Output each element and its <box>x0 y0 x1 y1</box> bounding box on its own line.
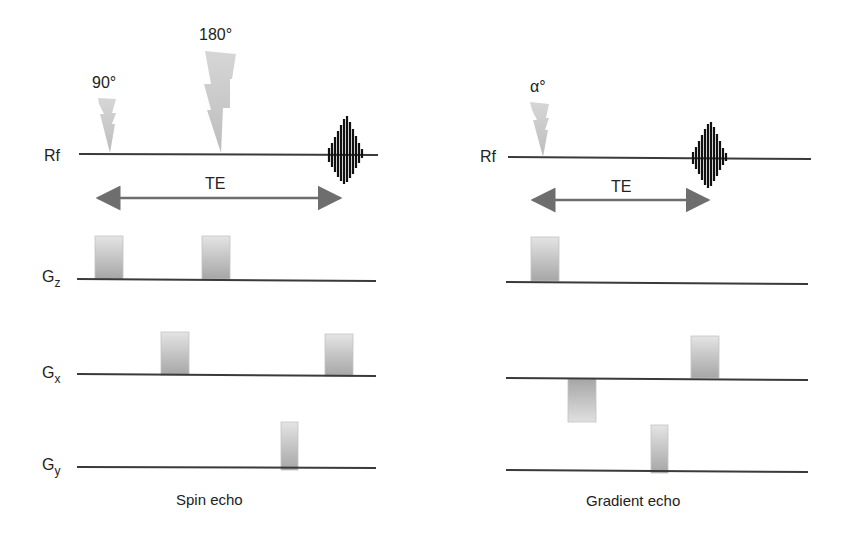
gx-readout-block <box>691 336 719 378</box>
gy-baseline <box>506 470 808 472</box>
pulse-alpha-label: α° <box>530 78 546 95</box>
rf-baseline <box>79 154 378 155</box>
lightning-bolt-icon <box>204 51 236 153</box>
gz-slice-select-block <box>531 237 559 281</box>
spin-echo-caption: Spin echo <box>176 491 243 508</box>
lightning-bolt-icon <box>530 102 549 157</box>
gx-block <box>161 332 189 375</box>
rf-baseline <box>508 157 811 159</box>
echo-signal-icon <box>693 122 726 188</box>
te-label: TE <box>611 178 631 195</box>
gradient-echo-panel: Rf α° TE <box>480 78 811 509</box>
spin-echo-panel: Rf 90° 180° TE Gz <box>42 26 378 508</box>
gx-readout-block <box>325 334 353 376</box>
gy-label: Gy <box>42 456 60 478</box>
gz-slice-select-block <box>95 236 123 279</box>
gy-baseline <box>77 467 376 468</box>
gz-baseline <box>77 279 376 281</box>
rf-label: Rf <box>480 148 497 165</box>
pulse-180-label: 180° <box>199 26 232 43</box>
gx-baseline <box>506 378 808 380</box>
te-label: TE <box>205 175 225 192</box>
pulse-90-label: 90° <box>92 74 116 91</box>
gx-label: Gx <box>42 364 60 386</box>
gz-baseline <box>506 282 808 284</box>
rf-label: Rf <box>44 147 61 164</box>
gy-phase-encode-block <box>281 422 298 470</box>
pulse-sequence-diagram: Rf 90° 180° TE Gz <box>0 0 845 537</box>
lightning-bolt-icon <box>98 98 116 153</box>
gz-slice-select-block <box>202 236 230 279</box>
gradient-echo-caption: Gradient echo <box>586 492 680 509</box>
echo-signal-icon <box>329 116 362 184</box>
gy-phase-encode-block <box>651 425 668 473</box>
gx-dephase-block <box>568 379 596 422</box>
gz-label: Gz <box>42 268 60 290</box>
